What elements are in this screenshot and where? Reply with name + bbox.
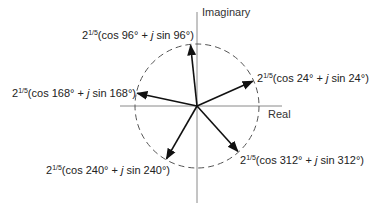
- root-label-24: 21/5(cos 24° + j sin 24°): [257, 72, 369, 85]
- expr: (cos 24° +: [273, 72, 326, 84]
- expr2: sin 96°): [153, 29, 193, 41]
- expr2: sin 168°): [89, 87, 136, 99]
- root-vectors: [137, 45, 252, 159]
- expr: (cos 312° +: [256, 154, 315, 166]
- exponent: 1/5: [52, 164, 62, 171]
- vector-arrow-24: [197, 81, 253, 106]
- exponent: 1/5: [88, 29, 98, 36]
- exponent: 1/5: [246, 154, 256, 161]
- expr2: sin 240°): [123, 164, 170, 176]
- exponent: 1/5: [18, 87, 28, 94]
- root-label-96: 21/5(cos 96° + j sin 96°): [82, 29, 194, 42]
- root-label-168: 21/5(cos 168° + j sin 168°): [12, 87, 136, 100]
- vector-arrow-168: [137, 93, 197, 106]
- vector-arrow-240: [167, 106, 198, 159]
- imaginary-axis-label: Imaginary: [202, 6, 250, 18]
- expr: (cos 240° +: [62, 164, 121, 176]
- expr: (cos 96° +: [98, 29, 151, 41]
- complex-roots-diagram: Imaginary Real 21/5(cos 24° + j sin 24°)…: [0, 0, 371, 211]
- cropped-caption-fragment: [2, 0, 5, 5]
- vector-arrow-312: [197, 106, 238, 151]
- root-label-240: 21/5(cos 240° + j sin 240°): [46, 164, 170, 177]
- expr2: sin 312°): [317, 154, 364, 166]
- exponent: 1/5: [263, 72, 273, 79]
- expr: (cos 168° +: [28, 87, 87, 99]
- expr2: sin 24°): [328, 72, 368, 84]
- vector-arrow-96: [191, 45, 197, 106]
- root-label-312: 21/5(cos 312° + j sin 312°): [240, 154, 364, 167]
- real-axis-label: Real: [268, 108, 291, 120]
